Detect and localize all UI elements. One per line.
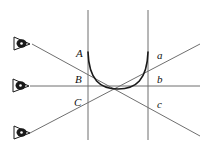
- label-point-b: b: [157, 74, 163, 85]
- label-point-B: B: [75, 74, 82, 85]
- eye-bottom: [14, 126, 30, 139]
- eye-middle: [13, 79, 29, 92]
- figure-canvas: [0, 0, 224, 147]
- label-point-C: C: [74, 97, 81, 108]
- eye-top: [14, 37, 30, 50]
- eye-icon-highlight: [19, 84, 22, 87]
- label-point-A: A: [76, 48, 83, 59]
- vertical-lines-group: [88, 10, 148, 140]
- eye-icon-highlight: [20, 42, 23, 45]
- label-point-a: a: [157, 50, 163, 61]
- label-point-c: c: [157, 99, 162, 110]
- ray-from-eye-top: [32, 44, 200, 136]
- concave-arc: [88, 52, 148, 89]
- sight-rays-group: [30, 44, 200, 136]
- geometry-figure: A B C a b c: [0, 0, 224, 147]
- eye-icon-highlight: [20, 131, 23, 134]
